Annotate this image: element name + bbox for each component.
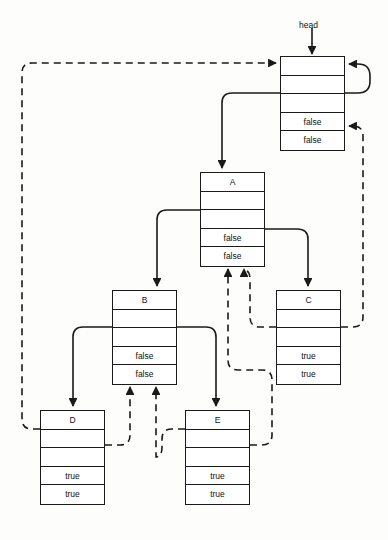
node-e-cell-0: E: [186, 411, 249, 430]
node-b-cell-4: false: [113, 365, 176, 384]
node-c-cell-4: true: [277, 365, 340, 384]
node-c-cell-3: true: [277, 347, 340, 366]
node-e-cell-3: true: [186, 467, 249, 486]
edge-head-self-loop: [345, 64, 370, 93]
node-d-cell-2: [41, 448, 104, 467]
edge-a-to-c: [265, 229, 308, 286]
head-node-cell-2: [281, 94, 344, 113]
node-a-cell-3: false: [201, 229, 264, 248]
node-d-cell-0: D: [41, 411, 104, 430]
node-b: Bfalsefalse: [112, 290, 177, 385]
node-e-cell-1: [186, 430, 249, 449]
node-c-cell-2: [277, 328, 340, 347]
node-b-cell-0: B: [113, 291, 176, 310]
node-e: Etruetrue: [185, 410, 250, 505]
node-a-cell-2: [201, 210, 264, 229]
node-d: Dtruetrue: [40, 410, 105, 505]
edge-a-to-b: [157, 210, 200, 286]
node-c-cell-1: [277, 310, 340, 329]
edge-c-to-head: [341, 126, 363, 327]
node-d-cell-3: true: [41, 467, 104, 486]
node-c-cell-0: C: [277, 291, 340, 310]
edge-b-to-d: [73, 327, 112, 406]
edge-e-to-b: [156, 387, 185, 457]
node-d-cell-1: [41, 430, 104, 449]
node-e-cell-2: [186, 448, 249, 467]
node-c: Ctruetrue: [276, 290, 341, 385]
edge-head-to-a: [222, 93, 280, 168]
node-b-cell-1: [113, 310, 176, 329]
head-node-cell-3: false: [281, 113, 344, 132]
head-node-cell-1: [281, 76, 344, 95]
edge-d-to-b: [105, 387, 130, 445]
node-d-cell-4: true: [41, 485, 104, 504]
node-a-cell-0: A: [201, 173, 264, 192]
head-node: falsefalse: [280, 56, 345, 151]
node-a-cell-4: false: [201, 247, 264, 266]
node-b-cell-3: false: [113, 347, 176, 366]
edge-b-to-e: [177, 327, 216, 406]
node-e-cell-4: true: [186, 485, 249, 504]
edge-c-to-a: [244, 269, 276, 327]
node-a-cell-1: [201, 192, 264, 211]
head-node-cell-4: false: [281, 131, 344, 150]
node-b-cell-2: [113, 328, 176, 347]
head-node-cell-0: [281, 57, 344, 76]
node-a: Afalsefalse: [200, 172, 265, 267]
linked-structure-diagram: head falsefalseAfalsefalseBfalsefalseCtr…: [0, 0, 388, 540]
head-pointer-label: head: [299, 20, 318, 30]
